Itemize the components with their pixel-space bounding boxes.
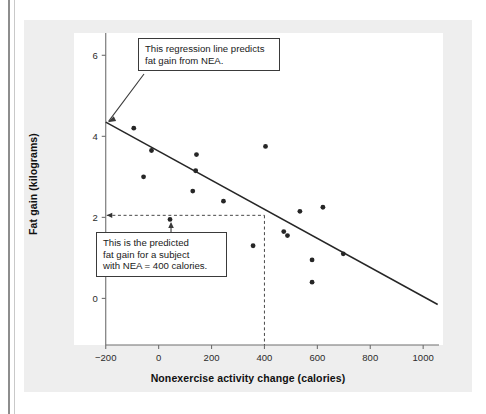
x-tick-label: 1000 — [413, 352, 434, 363]
data-point — [310, 280, 315, 285]
figure-root: Nonexercise activity change (calories) F… — [0, 0, 486, 414]
y-tick-label: 4 — [82, 131, 98, 142]
data-point — [190, 189, 195, 194]
scatter-plot-chart — [24, 20, 472, 392]
data-point — [193, 168, 198, 173]
x-tick-label: 0 — [156, 352, 161, 363]
data-point — [263, 144, 268, 149]
callout-regression-leader — [109, 74, 144, 121]
y-tick-label: 2 — [82, 212, 98, 223]
data-point — [297, 209, 302, 214]
data-point — [194, 152, 199, 157]
data-point — [149, 148, 154, 153]
data-point — [168, 217, 173, 222]
callout-prediction-arrowhead — [168, 222, 174, 228]
y-axis-title: Fat gain (kilograms) — [27, 104, 39, 264]
data-point — [310, 258, 315, 263]
data-point — [141, 174, 146, 179]
data-point — [341, 251, 346, 256]
x-tick-label: 400 — [257, 352, 273, 363]
data-point — [251, 243, 256, 248]
prediction-guide-arrowhead — [107, 213, 113, 218]
x-tick-label: 600 — [309, 352, 325, 363]
callout-prediction: This is the predicted fat gain for a sub… — [96, 232, 227, 277]
x-tick-label: −200 — [95, 352, 116, 363]
page-margin-rule-secondary — [14, 0, 15, 414]
x-tick-label: 800 — [362, 352, 378, 363]
callout-regression-line: This regression line predicts fat gain f… — [138, 38, 280, 71]
y-tick-label: 6 — [82, 50, 98, 61]
data-point — [221, 199, 226, 204]
data-point — [285, 233, 290, 238]
page-margin-rule — [8, 0, 10, 414]
regression-line — [106, 122, 438, 304]
x-tick-label: 200 — [204, 352, 220, 363]
data-point — [321, 205, 326, 210]
data-point — [281, 229, 286, 234]
x-axis-title: Nonexercise activity change (calories) — [24, 372, 472, 384]
data-point — [131, 126, 136, 131]
y-tick-label: 0 — [82, 293, 98, 304]
